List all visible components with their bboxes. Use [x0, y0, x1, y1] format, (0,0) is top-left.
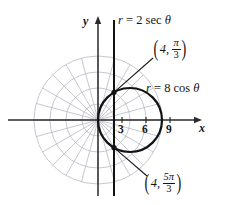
- point-label-upper-intersection: (4,π3): [152, 38, 188, 60]
- theta-denominator: 3: [172, 50, 179, 61]
- eq-variable-theta: θ: [165, 13, 171, 27]
- x-axis-label: x: [199, 122, 205, 134]
- eq-sign: =: [154, 81, 161, 95]
- theta-fraction: π3: [172, 38, 181, 60]
- x-tick-label-6: 6: [142, 124, 148, 136]
- theta-fraction: 5π3: [163, 172, 176, 194]
- eq-function: cos: [174, 81, 191, 95]
- point-comma: ,: [166, 43, 169, 56]
- right-paren: ): [176, 174, 181, 192]
- right-paren: ): [182, 40, 187, 58]
- point-comma: ,: [157, 177, 160, 190]
- theta-numerator: π: [172, 38, 179, 49]
- polar-graph-figure: y x 3 6 9 r = 2 sec θ r = 8 cos θ (4,π3)…: [0, 0, 239, 205]
- equation-label-vertical-line: r = 2 sec θ: [118, 14, 171, 27]
- point-label-lower-intersection: (4,5π3): [143, 172, 182, 194]
- y-axis-arrowhead: [95, 16, 101, 24]
- eq-sign: =: [126, 13, 133, 27]
- theta-numerator: 5π: [163, 172, 176, 183]
- polar-plot-canvas: [0, 0, 239, 205]
- theta-denominator: 3: [165, 184, 172, 195]
- eq-variable-theta: θ: [193, 81, 199, 95]
- eq-function: sec: [146, 13, 162, 27]
- left-paren: (: [153, 40, 158, 58]
- left-paren: (: [144, 174, 149, 192]
- equation-label-circle: r = 8 cos θ: [146, 82, 200, 95]
- y-axis-label: y: [83, 15, 88, 27]
- x-tick-label-3: 3: [118, 124, 124, 136]
- x-tick-label-9: 9: [166, 124, 172, 136]
